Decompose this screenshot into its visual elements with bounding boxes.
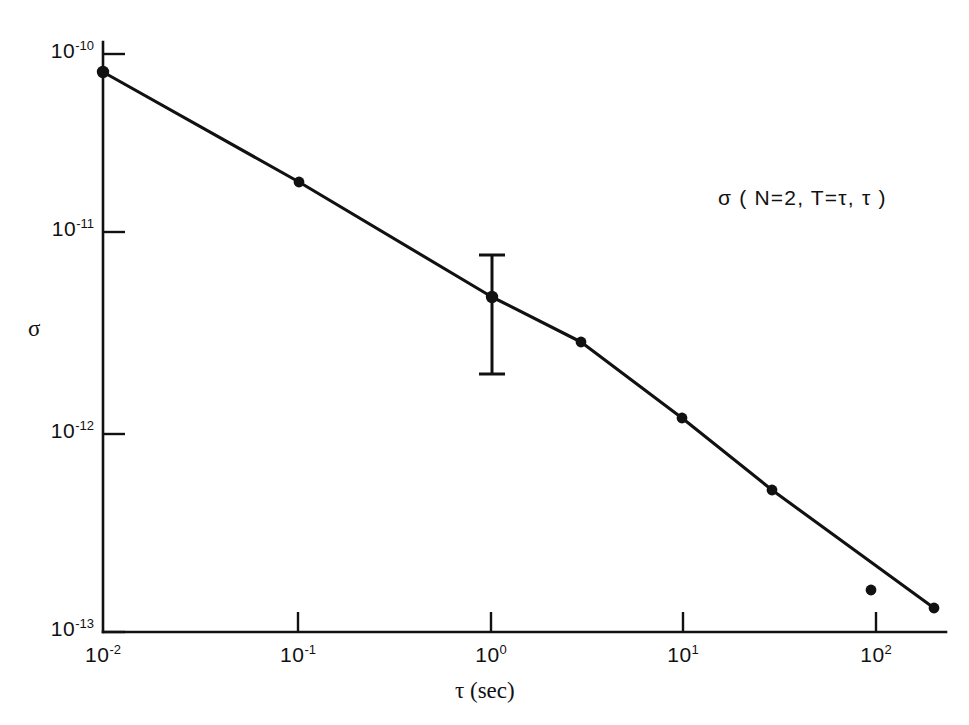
y-tick-label-2: 10-12: [30, 418, 94, 443]
plot-area: [0, 0, 969, 725]
series-annotation: σ ( N=2, T=τ, τ ): [718, 186, 887, 210]
data-point-marker-4: [677, 413, 688, 424]
x-tick-label-2: 100: [451, 642, 531, 667]
outlier-data-point: [866, 585, 877, 596]
x-axis-title: τ (sec): [455, 678, 515, 704]
y-tick-label-1: 10-11: [30, 216, 94, 241]
y-tick-label-3: 10-13: [30, 616, 94, 641]
data-point-marker-5: [767, 485, 778, 496]
data-point-marker-3: [576, 337, 587, 348]
x-tick-label-3: 101: [643, 642, 723, 667]
data-point-markers: [97, 66, 940, 614]
x-tick-label-1: 10-1: [258, 642, 338, 667]
data-series-line: [103, 72, 934, 608]
y-tick-label-0: 10-10: [30, 38, 94, 63]
data-point-marker-2: [486, 291, 498, 303]
y-axis-tick-marks: [103, 54, 125, 632]
y-axis-title: σ: [28, 316, 40, 342]
data-point-marker-1: [294, 177, 305, 188]
outlier-marker: [866, 585, 877, 596]
series-polyline: [103, 72, 934, 608]
x-tick-label-4: 102: [836, 642, 916, 667]
data-point-marker-0: [97, 66, 109, 78]
error-bar: [479, 255, 505, 374]
x-tick-label-0: 10-2: [63, 642, 143, 667]
x-axis-tick-marks: [298, 612, 876, 632]
figure-canvas: 10-1010-1110-1210-13 10-210-1100101102 σ…: [0, 0, 969, 725]
axis-frame: [103, 42, 946, 632]
data-point-marker-6: [929, 603, 940, 614]
